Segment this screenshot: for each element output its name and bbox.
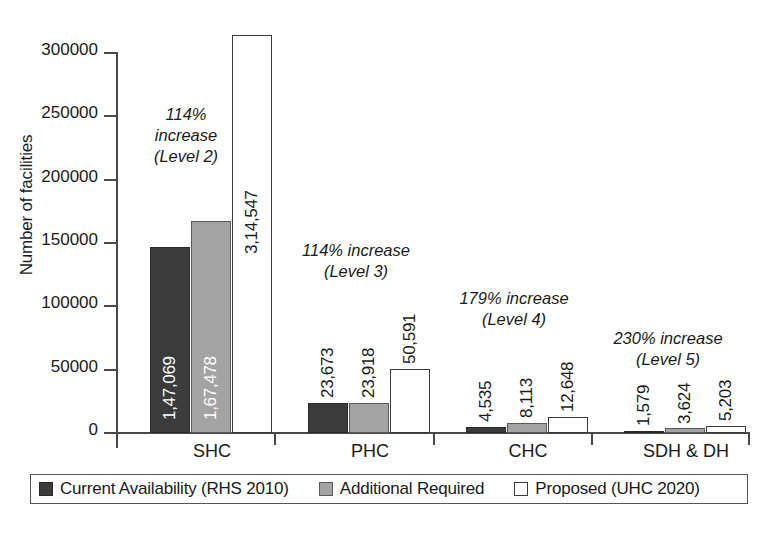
y-tick-label-200000: 200000	[41, 167, 98, 187]
bar-shc-proposed[interactable]: 3,14,547	[232, 35, 272, 433]
bar-value-chc-proposed: 12,648	[558, 362, 578, 412]
chart-legend: Current Availability (RHS 2010) Addition…	[30, 474, 748, 504]
annotation-phc-line1: 114% increase	[266, 240, 446, 261]
y-tick-50000: 50000	[104, 369, 118, 371]
x-axis-label-sdh-dh: SDH & DH	[622, 441, 750, 462]
y-axis-title: Number of facilities	[17, 100, 37, 310]
bar-value-sdh-dh-current: 1,579	[634, 385, 654, 426]
legend-item-current-availability[interactable]: Current Availability (RHS 2010)	[39, 479, 289, 499]
annotation-shc-line2: increase	[134, 125, 238, 146]
legend-label-additional-required: Additional Required	[340, 479, 485, 499]
bar-chart: Number of facilities 0 50000 100000 1500…	[0, 0, 773, 539]
bar-chc-current[interactable]: 4,535	[466, 427, 506, 433]
y-tick-label-0: 0	[89, 420, 98, 440]
x-axis-label-shc: SHC	[148, 441, 276, 462]
bar-phc-proposed[interactable]: 50,591	[390, 369, 430, 433]
legend-swatch-white-icon	[514, 482, 528, 496]
legend-label-proposed: Proposed (UHC 2020)	[535, 479, 699, 499]
bar-group-shc: 1,47,069 1,67,478 3,14,547 SHC	[148, 21, 276, 433]
annotation-sdh-dh: 230% increase (Level 5)	[578, 328, 758, 370]
bar-value-chc-additional: 8,113	[517, 378, 537, 418]
legend-item-proposed[interactable]: Proposed (UHC 2020)	[514, 479, 699, 499]
bar-sdh-dh-proposed[interactable]: 5,203	[706, 426, 746, 433]
annotation-chc: 179% increase (Level 4)	[424, 288, 604, 330]
bar-value-sdh-dh-proposed: 5,203	[716, 380, 736, 421]
y-tick-label-250000: 250000	[41, 103, 98, 123]
legend-label-current-availability: Current Availability (RHS 2010)	[60, 479, 289, 499]
y-axis-line	[116, 52, 118, 448]
bar-value-shc-current: 1,47,069	[160, 356, 180, 420]
bar-shc-additional[interactable]: 1,67,478	[191, 221, 231, 433]
y-tick-100000: 100000	[104, 305, 118, 307]
bar-sdh-dh-current[interactable]: 1,579	[624, 431, 664, 433]
bar-value-phc-additional: 23,918	[359, 348, 379, 398]
annotation-chc-line1: 179% increase	[424, 288, 604, 309]
plot-area: 0 50000 100000 150000 200000 250000 3000…	[116, 20, 750, 433]
annotation-shc: 114% increase (Level 2)	[134, 104, 238, 167]
annotation-sdh-dh-line2: (Level 5)	[578, 349, 758, 370]
y-tick-300000: 300000	[104, 52, 118, 54]
bar-value-shc-additional: 1,67,478	[201, 356, 221, 420]
legend-item-additional-required[interactable]: Additional Required	[319, 479, 485, 499]
annotation-phc-line2: (Level 3)	[266, 261, 446, 282]
legend-swatch-gray-icon	[319, 482, 333, 496]
annotation-phc: 114% increase (Level 3)	[266, 240, 446, 282]
bar-value-phc-proposed: 50,591	[400, 314, 420, 364]
x-axis-label-phc: PHC	[306, 441, 434, 462]
y-tick-150000: 150000	[104, 242, 118, 244]
y-tick-200000: 200000	[104, 179, 118, 181]
bar-value-sdh-dh-additional: 3,624	[675, 383, 695, 424]
bar-sdh-dh-additional[interactable]: 3,624	[665, 428, 705, 433]
legend-swatch-dark-icon	[39, 482, 53, 496]
y-tick-250000: 250000	[104, 115, 118, 117]
y-tick-label-100000: 100000	[41, 293, 98, 313]
y-tick-label-50000: 50000	[51, 357, 98, 377]
annotation-shc-line1: 114%	[134, 104, 238, 125]
bar-group-sdh-dh: 1,579 3,624 5,203 SDH & DH	[622, 21, 750, 433]
bar-chc-additional[interactable]: 8,113	[507, 423, 547, 433]
bar-value-phc-current: 23,673	[318, 348, 338, 398]
annotation-shc-line3: (Level 2)	[134, 146, 238, 167]
annotation-sdh-dh-line1: 230% increase	[578, 328, 758, 349]
bar-group-chc: 4,535 8,113 12,648 CHC	[464, 21, 592, 433]
bar-group-phc: 23,673 23,918 50,591 PHC	[306, 21, 434, 433]
y-tick-label-300000: 300000	[41, 40, 98, 60]
bar-phc-current[interactable]: 23,673	[308, 403, 348, 433]
annotation-chc-line2: (Level 4)	[424, 309, 604, 330]
bar-chc-proposed[interactable]: 12,648	[548, 417, 588, 433]
y-tick-label-150000: 150000	[41, 230, 98, 250]
bar-value-shc-proposed: 3,14,547	[242, 190, 262, 254]
bar-phc-additional[interactable]: 23,918	[349, 403, 389, 433]
bar-shc-current[interactable]: 1,47,069	[150, 247, 190, 433]
bar-value-chc-current: 4,535	[476, 381, 496, 422]
x-tick-separator-0	[116, 432, 118, 445]
x-axis-label-chc: CHC	[464, 441, 592, 462]
